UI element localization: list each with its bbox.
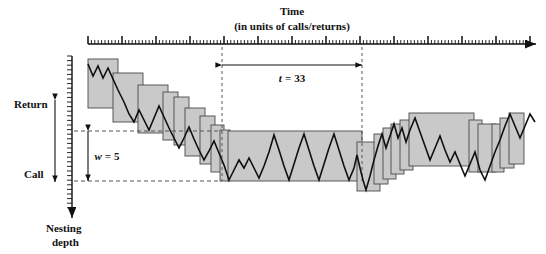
- figure-canvas: Time (in units of calls/returns) Return …: [0, 0, 546, 254]
- nesting-depth-figure: Time (in units of calls/returns) Return …: [0, 0, 546, 254]
- window-width-annotation: w=5: [94, 150, 120, 162]
- window-width-value: 5: [114, 150, 120, 162]
- depth-window-band: [228, 131, 362, 181]
- time-window-value: 33: [294, 72, 306, 84]
- time-window-annotation: t=33: [279, 72, 306, 84]
- return-label: Return: [14, 98, 48, 110]
- window-width-symbol: w: [94, 150, 102, 162]
- time-axis-title-line1: Time: [280, 5, 304, 17]
- time-window-symbol: t: [279, 72, 283, 84]
- window-width-equals: =: [105, 150, 111, 162]
- depth-window-band: [509, 113, 524, 164]
- nesting-depth-axis: [55, 56, 72, 218]
- nesting-depth-label-line2: depth: [52, 236, 79, 248]
- time-axis: [88, 36, 536, 44]
- nesting-depth-label-line1: Nesting: [46, 222, 82, 234]
- depth-window-bands: [88, 59, 524, 191]
- time-axis-title-line2: (in units of calls/returns): [234, 20, 350, 33]
- time-window-equals: =: [285, 72, 291, 84]
- call-label: Call: [24, 168, 44, 180]
